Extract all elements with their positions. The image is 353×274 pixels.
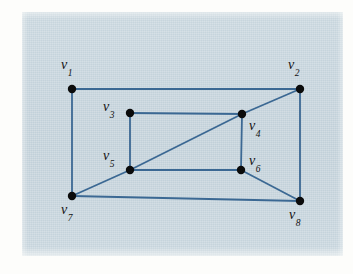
vertex-label-v1: v1 <box>61 58 72 72</box>
vertex-label-base: v <box>61 57 67 72</box>
graph-drawing <box>0 0 353 274</box>
vertex-label-v6: v6 <box>249 154 260 168</box>
edge-v3-v4 <box>130 113 242 114</box>
vertex-label-base: v <box>103 99 109 114</box>
vertex-label-base: v <box>289 207 295 222</box>
vertex-label-v8: v8 <box>289 208 300 222</box>
vertex-label-base: v <box>249 153 255 168</box>
vertex-node-v2 <box>296 85 304 93</box>
vertex-node-v4 <box>238 110 246 118</box>
edge-v6-v8 <box>241 170 300 201</box>
vertex-label-v3: v3 <box>103 100 114 114</box>
vertex-node-v6 <box>237 166 245 174</box>
vertex-node-v1 <box>68 85 76 93</box>
vertex-label-base: v <box>288 57 294 72</box>
vertex-label-subscript: 5 <box>110 159 115 169</box>
vertex-label-subscript: 1 <box>68 68 73 78</box>
figure-root: v1v2v3v4v5v6v7v8 <box>0 0 353 274</box>
vertex-label-v4: v4 <box>249 119 260 133</box>
vertex-label-base: v <box>103 148 109 163</box>
edge-v4-v2 <box>242 89 300 114</box>
vertex-label-v5: v5 <box>103 149 114 163</box>
vertex-label-v2: v2 <box>288 58 299 72</box>
vertex-label-base: v <box>61 202 67 217</box>
vertex-node-v5 <box>126 166 134 174</box>
vertex-node-v8 <box>296 197 304 205</box>
edge-v7-v8 <box>72 196 300 201</box>
edge-v5-v4 <box>130 114 242 170</box>
vertex-node-v3 <box>126 109 134 117</box>
vertex-label-subscript: 6 <box>256 164 261 174</box>
vertex-label-subscript: 3 <box>110 110 115 120</box>
vertex-label-subscript: 2 <box>295 68 300 78</box>
vertex-label-v7: v7 <box>61 203 72 217</box>
vertex-label-subscript: 4 <box>256 129 261 139</box>
vertex-label-subscript: 8 <box>296 218 301 228</box>
vertex-label-subscript: 7 <box>68 213 73 223</box>
vertex-label-base: v <box>249 118 255 133</box>
edge-v7-v5 <box>72 170 130 196</box>
edge-v4-v6 <box>241 114 242 170</box>
vertex-node-v7 <box>68 192 76 200</box>
